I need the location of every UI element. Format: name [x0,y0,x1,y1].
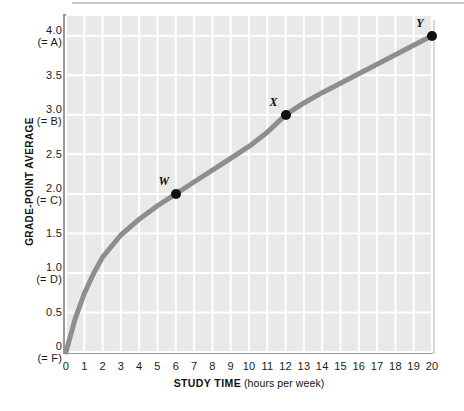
data-point-w [171,189,181,199]
y-tick-value: 0 [4,340,62,352]
x-axis-title-unit: (hours per week) [244,377,324,389]
data-point-label-w: W [158,173,169,188]
data-point-label-x: X [270,94,278,109]
data-point-x [281,110,291,120]
y-tick-0-5: 0.5 [4,306,62,318]
data-point-label-y: Y [416,15,423,30]
chart-figure: 4.0(= A)3.53.0(= B)2.52.0(= C)1.51.0(= D… [0,0,464,411]
y-tick-grade: (= A) [4,36,62,48]
y-tick-value: 3.5 [4,69,62,81]
y-axis-title: GRADE-POINT AVERAGE [24,87,35,277]
x-axis-title: STUDY TIME (hours per week) [66,377,432,389]
y-tick-4-0: 4.0(= A) [4,24,62,48]
x-tick-20: 20 [420,360,444,372]
y-tick-value: 0.5 [4,306,62,318]
y-tick-value: 4.0 [4,24,62,36]
x-axis-title-main: STUDY TIME [174,377,241,389]
y-tick-3-5: 3.5 [4,69,62,81]
top-rule-divider [72,2,464,4]
plot-area [66,16,432,352]
data-curve-layer [66,16,432,352]
data-point-y [427,31,437,41]
